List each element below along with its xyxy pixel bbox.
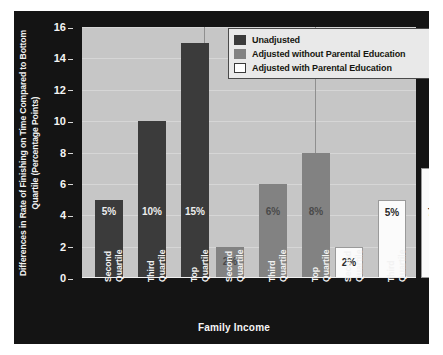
legend-swatch: [234, 35, 246, 45]
bar-value-label: 7%: [422, 207, 429, 218]
bar: 7%: [421, 168, 429, 278]
legend-item: Adjusted with Parental Education: [234, 61, 429, 74]
gridline-6: [82, 184, 416, 185]
legend-item: Unadjusted: [234, 33, 429, 46]
y-axis-tick-2: 2: [47, 241, 73, 253]
x-axis-title: Family Income: [134, 322, 334, 333]
y-axis-tick-0: 0: [47, 272, 73, 284]
bar-value-label: 5%: [95, 206, 123, 217]
legend-item: Adjusted without Parental Education: [234, 47, 429, 60]
bar-value-label: 8%: [302, 206, 330, 217]
x-tick-line2: Quartile: [115, 224, 125, 282]
y-axis-tick-16: 16: [47, 21, 73, 33]
x-tick-line1: Second: [225, 224, 235, 282]
gridline-8: [82, 153, 416, 154]
x-tick-line2: Quartile: [398, 224, 408, 282]
y-axis-tick-6: 6: [47, 178, 73, 190]
x-axis-tick-label: TopQuartile: [420, 282, 429, 296]
legend-swatch: [234, 49, 246, 59]
x-tick-line2: Quartile: [158, 224, 168, 282]
bar-value-label: 6%: [259, 206, 287, 217]
bar-value-label: 5%: [379, 207, 405, 218]
x-tick-line1: Top: [190, 224, 200, 282]
x-tick-line1: Third: [387, 224, 397, 282]
y-axis-tick-4: 4: [47, 209, 73, 221]
x-tick-line1: Second: [344, 224, 354, 282]
legend-label: Adjusted without Parental Education: [252, 49, 406, 59]
chart-legend: UnadjustedAdjusted without Parental Educ…: [228, 28, 429, 79]
gridline-12: [82, 90, 416, 91]
bar-value-label: 15%: [181, 206, 209, 217]
legend-swatch: [234, 63, 246, 73]
y-axis-tick-10: 10: [47, 115, 73, 127]
x-tick-line1: Second: [104, 224, 114, 282]
x-tick-line2: Quartile: [201, 224, 211, 282]
legend-label: Unadjusted: [252, 35, 300, 45]
x-tick-line2: Quartile: [322, 224, 332, 282]
x-axis-baseline: [82, 277, 416, 279]
x-tick-line2: Quartile: [279, 224, 289, 282]
gridline-2: [82, 247, 416, 248]
x-tick-line1: Top: [311, 224, 321, 282]
y-axis-tick-8: 8: [47, 147, 73, 159]
y-axis-tick-14: 14: [47, 52, 73, 64]
x-tick-line1: Third: [268, 224, 278, 282]
gridline-4: [82, 215, 416, 216]
legend-label: Adjusted with Parental Education: [252, 63, 392, 73]
x-tick-line1: Third: [147, 224, 157, 282]
gridline-10: [82, 121, 416, 122]
y-axis-tick-12: 12: [47, 84, 73, 96]
x-tick-line2: Quartile: [355, 224, 365, 282]
bar-value-label: 10%: [138, 206, 166, 217]
x-tick-line2: Quartile: [236, 224, 246, 282]
chart-figure: Differences in Rate of Finishing on Time…: [14, 11, 429, 344]
